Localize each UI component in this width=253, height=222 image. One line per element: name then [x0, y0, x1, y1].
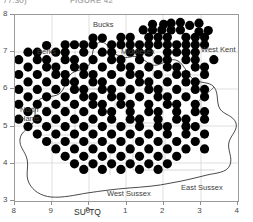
data-point	[79, 152, 88, 161]
data-point	[181, 129, 190, 138]
data-point	[107, 55, 116, 64]
y-tick-mark	[10, 51, 14, 52]
data-point	[88, 129, 97, 138]
data-point	[107, 129, 116, 138]
data-point	[200, 115, 209, 124]
data-point	[70, 62, 79, 71]
y-tick-label: 6	[3, 83, 7, 92]
header-left-text: 77.30)	[3, 0, 27, 5]
figure-root: 77.30) FIGURE 42	[0, 0, 253, 222]
data-point	[116, 152, 125, 161]
data-point	[70, 40, 79, 49]
data-point	[135, 122, 144, 131]
data-point	[61, 107, 70, 116]
x-tick-mark	[237, 201, 238, 205]
data-point	[79, 92, 88, 101]
county-label-bucks: Bucks	[93, 20, 113, 29]
data-point	[107, 159, 116, 168]
x-tick-label: 4	[235, 206, 239, 215]
data-point	[135, 55, 144, 64]
data-point	[116, 137, 125, 146]
y-tick-mark	[10, 163, 14, 164]
data-point	[33, 70, 42, 79]
county-label-line: Bucks	[93, 20, 113, 29]
data-point	[163, 159, 172, 168]
data-point	[153, 137, 162, 146]
data-point	[153, 122, 162, 131]
data-point	[194, 19, 203, 28]
data-point	[61, 77, 70, 86]
y-tick-label: 3	[3, 195, 7, 204]
data-point	[61, 55, 70, 64]
county-label-north-hants: NorthHants	[20, 105, 40, 123]
data-point	[88, 100, 97, 109]
data-point	[70, 144, 79, 153]
x-tick-mark	[14, 201, 15, 205]
data-point	[33, 85, 42, 94]
data-point	[98, 62, 107, 71]
data-point	[116, 122, 125, 131]
data-point	[172, 152, 181, 161]
county-label-west-sussex: West Sussex	[107, 189, 151, 198]
data-point	[172, 137, 181, 146]
data-point	[181, 77, 190, 86]
header-right-text: FIGURE 42	[70, 0, 113, 5]
data-point	[42, 62, 51, 71]
data-point	[51, 129, 60, 138]
grid-label-su: SU	[74, 207, 86, 217]
data-point	[135, 77, 144, 86]
data-point	[163, 144, 172, 153]
data-point	[144, 144, 153, 153]
data-point	[181, 144, 190, 153]
grid-square-caption: SU0TQ	[74, 206, 101, 217]
data-point	[88, 40, 97, 49]
data-point	[23, 48, 32, 57]
y-tick-label: 7	[3, 46, 7, 55]
x-tick-label: 3	[197, 206, 201, 215]
grid-label-tq: TQ	[89, 207, 101, 217]
county-label-line: Berks	[37, 47, 56, 56]
data-point	[172, 85, 181, 94]
county-label-line: North	[20, 105, 40, 114]
county-label-line: West Kent	[201, 45, 235, 54]
data-point	[200, 129, 209, 138]
data-point	[116, 100, 125, 109]
data-point	[191, 137, 200, 146]
county-label-line: West Sussex	[107, 189, 151, 198]
x-tick-label: 8	[12, 206, 16, 215]
data-point	[144, 159, 153, 168]
data-point	[153, 165, 162, 174]
data-point	[172, 115, 181, 124]
data-point	[33, 129, 42, 138]
data-point	[209, 55, 218, 64]
data-point	[61, 137, 70, 146]
data-point	[98, 107, 107, 116]
data-point	[200, 92, 209, 101]
data-point	[79, 107, 88, 116]
x-tick-mark	[88, 201, 89, 205]
data-point	[144, 85, 153, 94]
data-point	[181, 92, 190, 101]
y-tick-mark	[10, 126, 14, 127]
page-header-strip: 77.30) FIGURE 42	[0, 0, 253, 9]
data-point	[163, 129, 172, 138]
data-point	[126, 115, 135, 124]
data-point	[191, 85, 200, 94]
y-tick-label: 5	[3, 121, 7, 130]
data-point	[15, 55, 23, 64]
x-tick-label: 9	[49, 206, 53, 215]
data-point	[144, 107, 153, 116]
data-point	[139, 25, 148, 34]
y-tick-label: 4	[3, 158, 7, 167]
data-point	[126, 159, 135, 168]
data-point	[70, 100, 79, 109]
distribution-map-plot: BucksBerksMiddlesexWest KentNorthHantsWe…	[14, 14, 239, 202]
map-canvas: BucksBerksMiddlesexWest KentNorthHantsWe…	[15, 15, 238, 201]
data-point	[42, 122, 51, 131]
data-point	[61, 92, 70, 101]
data-point	[135, 165, 144, 174]
data-point	[172, 48, 181, 57]
county-label-line: Middlesex	[121, 47, 155, 56]
data-point	[61, 152, 70, 161]
county-label-west-kent: West Kent	[201, 45, 235, 54]
